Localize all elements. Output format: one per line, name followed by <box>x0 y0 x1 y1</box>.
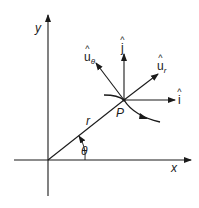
point-p-dot <box>122 98 125 101</box>
i-hat-label: i <box>178 94 181 106</box>
x-axis-label: x <box>171 162 177 174</box>
point-p-label: P <box>116 107 124 119</box>
u-theta-vector <box>96 63 124 100</box>
trajectory-arrow-icon <box>139 113 148 119</box>
y-axis-label: y <box>35 22 41 34</box>
u-theta-subscript: θ <box>91 57 95 66</box>
diagram-graphics <box>0 0 199 208</box>
u-r-subscript: r <box>164 66 167 75</box>
i-hat-base: i <box>178 94 181 106</box>
angle-label: θ <box>81 145 88 157</box>
polar-coordinates-diagram: y x j i ur uθ P r θ <box>0 0 199 208</box>
u-r-vector <box>124 74 158 100</box>
radius-label: r <box>86 115 90 127</box>
u-r-label: ur <box>157 60 166 74</box>
u-theta-base: u <box>84 51 91 63</box>
j-hat-label: j <box>121 42 124 54</box>
j-hat-base: j <box>121 42 124 54</box>
u-theta-label: uθ <box>84 51 95 65</box>
u-r-base: u <box>157 60 164 72</box>
